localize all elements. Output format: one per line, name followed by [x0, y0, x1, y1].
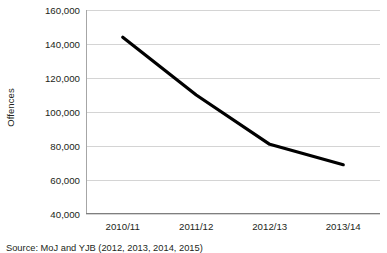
y-axis-title-label: Offences — [5, 88, 16, 127]
x-tick-label: 2012/13 — [252, 221, 287, 232]
y-tick-label: 60,000 — [50, 175, 80, 186]
y-tick-label: 120,000 — [45, 73, 80, 84]
y-tick-label: 40,000 — [50, 209, 80, 220]
x-tick-label: 2013/14 — [326, 221, 361, 232]
y-tick-label: 140,000 — [45, 39, 80, 50]
y-tick-label: 80,000 — [50, 141, 80, 152]
x-tick-label: 2011/12 — [179, 221, 213, 232]
y-axis-title: Offences — [0, 0, 20, 215]
x-tick-label: 2010/11 — [106, 221, 140, 232]
y-axis-tick-labels: 160,000140,000120,000100,00080,00060,000… — [18, 0, 84, 215]
series-offences — [86, 10, 380, 214]
x-axis-tick-labels: 2010/112011/122012/132013/14 — [86, 219, 380, 235]
gridline — [86, 214, 380, 215]
y-tick-label: 100,000 — [45, 107, 80, 118]
y-tick-label: 160,000 — [45, 5, 80, 16]
plot-area — [86, 10, 380, 214]
line-chart-figure: Offences 160,000140,000120,000100,00080,… — [0, 0, 387, 253]
source-caption: Source: MoJ and YJB (2012, 2013, 2014, 2… — [6, 243, 203, 253]
